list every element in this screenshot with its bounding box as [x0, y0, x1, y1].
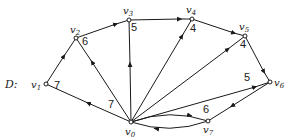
label-v2: v2 [70, 24, 81, 37]
node-v4 [190, 17, 194, 21]
weight-v4: 4 [190, 22, 196, 34]
label-v4: v4 [186, 4, 196, 17]
node-v7 [206, 119, 210, 123]
label-v1: v1 [31, 79, 41, 92]
node-v6 [268, 80, 272, 84]
weight-v3: 5 [131, 21, 137, 33]
edge-v4-v5 [192, 19, 245, 36]
label-v0: v0 [125, 126, 136, 138]
label-v7: v7 [203, 124, 214, 137]
weight-v0: 7 [108, 98, 114, 110]
weight-v2: 6 [82, 35, 88, 47]
edge-v1-v2 [46, 38, 76, 84]
weight-v5: 4 [240, 38, 246, 50]
label-v5: v5 [239, 21, 250, 34]
edge-v0-v4 [131, 19, 192, 122]
weight-v7: 6 [203, 103, 209, 115]
node-v0 [129, 120, 133, 124]
edge-v0-v3 [129, 20, 131, 122]
edge-v6-v7 [208, 82, 270, 121]
weight-v1: 7 [54, 79, 60, 91]
edge-v3-v4 [129, 19, 192, 20]
edge-v7-v0-curve [131, 121, 208, 128]
node-v1 [44, 82, 48, 86]
label-v3: v3 [123, 5, 134, 18]
digraph-name: D: [4, 78, 18, 91]
directed-graph: v0 v1 v2 v3 v4 v5 v6 v7 7 6 5 4 4 5 6 7 … [0, 0, 285, 138]
label-v6: v6 [274, 77, 285, 90]
weight-v6: 5 [244, 71, 250, 83]
edge-v0-v7-curve [131, 115, 208, 122]
